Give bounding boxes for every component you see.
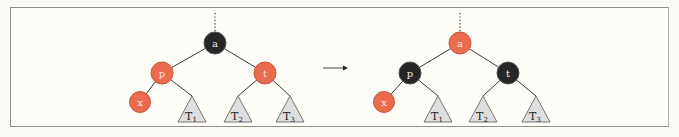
svg-text:p: p	[159, 68, 165, 79]
svg-text:a: a	[212, 38, 218, 49]
recoloring-diagram: T1 T2 T3 a p t x	[0, 0, 679, 137]
svg-text:t: t	[506, 68, 510, 79]
svg-text:t: t	[263, 68, 267, 79]
svg-text:a: a	[457, 38, 463, 49]
subtree-t2: T2	[224, 96, 252, 124]
node-x-red: x	[130, 92, 151, 113]
svg-text:p: p	[407, 68, 413, 79]
svg-text:x: x	[137, 97, 143, 108]
node-t-red: t	[254, 62, 276, 84]
subtree-t3: T3	[522, 96, 550, 124]
subtree-t2: T2	[469, 96, 497, 124]
subtree-t1: T1	[178, 96, 206, 124]
node-p-black: p	[399, 62, 421, 84]
node-a-red: a	[449, 32, 471, 54]
node-t-black: t	[497, 62, 519, 84]
before-tree: T1 T2 T3 a p t x	[130, 13, 305, 124]
transform-arrow	[323, 66, 348, 71]
node-a-black: a	[204, 32, 226, 54]
node-x-red: x	[374, 92, 395, 113]
svg-text:x: x	[381, 97, 387, 108]
subtree-t3: T3	[276, 96, 304, 124]
subtree-t1: T1	[424, 96, 452, 124]
after-tree: T1 T2 T3 a p t x	[374, 13, 551, 124]
node-p-red: p	[151, 62, 173, 84]
